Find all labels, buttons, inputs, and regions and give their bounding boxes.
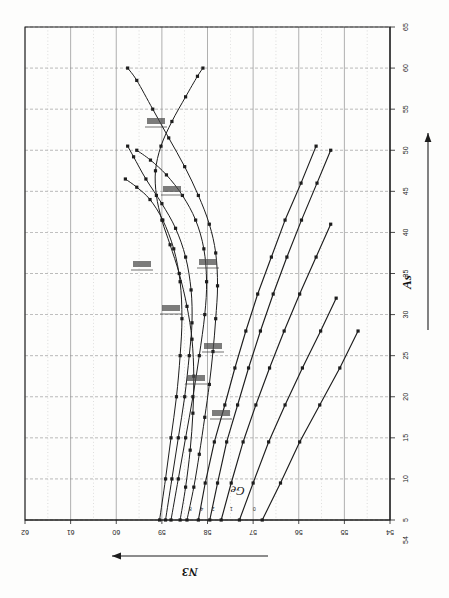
data-point-marker: [203, 416, 206, 419]
data-point-marker: [151, 108, 154, 111]
chart-figure: 626160595857565554 656055504540353025201…: [0, 0, 449, 598]
curve-family-label: Ge: [229, 483, 245, 498]
bottom-axis-tick-label: 60: [112, 529, 120, 536]
data-point-marker: [300, 218, 303, 221]
data-point-marker: [161, 218, 164, 221]
data-point-marker: [214, 317, 217, 320]
data-point-marker: [179, 354, 182, 357]
line-end-label: 4: [200, 506, 203, 512]
axis-title-n3: N3: [112, 553, 268, 580]
data-curve: [262, 331, 358, 520]
data-point-marker: [202, 247, 205, 250]
bottom-axis-tick-labels: 626160595857565554: [21, 520, 394, 536]
data-point-marker: [301, 366, 304, 369]
data-curve: [210, 150, 331, 520]
data-point-marker: [124, 177, 127, 180]
inline-label: [131, 261, 153, 270]
data-point-marker: [285, 255, 288, 258]
data-point-marker: [254, 403, 257, 406]
data-point-marker: [175, 395, 178, 398]
bottom-axis-tick-label: 58: [204, 529, 212, 536]
data-point-marker: [319, 329, 322, 332]
data-point-marker: [208, 383, 211, 386]
data-point-marker: [183, 165, 186, 168]
data-point-marker: [189, 288, 192, 291]
data-point-marker: [314, 145, 317, 148]
data-curve: [128, 68, 218, 520]
bottom-axis-tick-label: 59: [158, 529, 166, 536]
grid-layer: [25, 27, 390, 520]
data-point-marker: [268, 366, 271, 369]
data-point-marker: [236, 403, 239, 406]
inline-label: [145, 118, 167, 127]
data-point-marker: [184, 255, 187, 258]
data-point-marker: [184, 486, 187, 489]
right-axis-tick-label: 50: [402, 146, 409, 154]
data-point-marker: [191, 412, 194, 415]
data-point-marker: [196, 75, 199, 78]
inline-label-ink: [147, 118, 165, 124]
right-axis-tick-label: 20: [402, 393, 409, 401]
right-axis-tick-label: 10: [402, 475, 409, 483]
data-point-marker: [154, 169, 157, 172]
data-point-marker: [126, 66, 129, 69]
axis-title-as-text: As: [399, 275, 414, 290]
data-point-marker: [270, 255, 273, 258]
data-point-marker: [201, 66, 204, 69]
data-point-marker: [299, 182, 302, 185]
data-point-marker: [272, 292, 275, 295]
data-point-marker: [149, 159, 152, 162]
data-point-marker: [132, 155, 135, 158]
data-point-marker: [168, 243, 171, 246]
bottom-axis-tick-label: 57: [249, 529, 257, 536]
data-point-marker: [190, 338, 193, 341]
data-point-marker: [192, 486, 195, 489]
data-point-marker: [177, 477, 180, 480]
data-point-marker: [135, 79, 138, 82]
line-end-label: 1: [230, 506, 233, 512]
line-end-label: 0: [253, 506, 256, 512]
data-point-marker: [188, 354, 191, 357]
data-point-marker: [214, 251, 217, 254]
data-point-marker: [177, 436, 180, 439]
data-point-marker: [191, 395, 194, 398]
data-point-marker: [190, 321, 193, 324]
bottom-axis-tick-label: 62: [21, 529, 29, 536]
n3-arrow-head: [112, 553, 121, 560]
data-point-marker: [329, 223, 332, 226]
right-axis-tick-label: 65: [402, 23, 409, 31]
data-point-marker: [135, 186, 138, 189]
data-point-marker: [164, 477, 167, 480]
right-axis-tick-label: 15: [402, 434, 409, 442]
right-axis-tick-label: 25: [402, 352, 409, 360]
data-point-marker: [223, 403, 226, 406]
data-point-marker: [298, 292, 301, 295]
data-point-marker: [174, 227, 177, 230]
data-point-marker: [178, 272, 181, 275]
data-point-marker: [356, 329, 359, 332]
data-point-marker: [211, 350, 214, 353]
data-point-marker: [183, 395, 186, 398]
inline-label-ink: [212, 410, 230, 416]
data-point-marker: [184, 436, 187, 439]
data-point-marker: [144, 177, 147, 180]
inline-label-ink: [162, 305, 180, 311]
inline-label: [160, 305, 182, 314]
data-point-marker: [335, 297, 338, 300]
data-point-marker: [170, 477, 173, 480]
data-point-marker: [194, 218, 197, 221]
inline-label-ink: [133, 261, 151, 267]
data-point-marker: [283, 403, 286, 406]
data-point-marker: [216, 481, 219, 484]
data-point-marker: [169, 436, 172, 439]
curve-family-label-layer: Ge: [229, 483, 245, 498]
right-axis-tick-label: 40: [402, 228, 409, 236]
right-axis-tick-label: 60: [402, 64, 409, 72]
data-point-marker: [205, 280, 208, 283]
inline-label-ink: [199, 259, 217, 265]
data-point-marker: [189, 449, 192, 452]
data-curve: [137, 150, 207, 520]
inline-label: [161, 186, 183, 195]
bottom-axis-tick-label: 61: [67, 529, 75, 536]
data-point-marker: [244, 329, 247, 332]
